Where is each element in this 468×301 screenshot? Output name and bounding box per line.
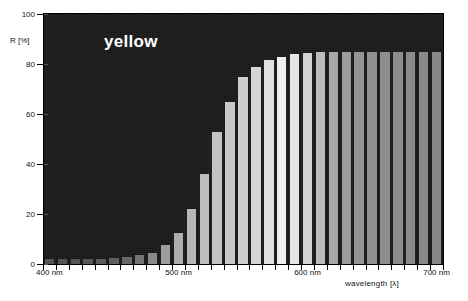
bar [148,253,157,264]
bar [122,257,131,265]
x-tick-mark [159,265,160,270]
y-tick-mark-inner [44,14,48,15]
bar [329,52,338,265]
x-tick-label: 500 nm [165,268,192,277]
bar [212,132,221,265]
bar [432,52,441,265]
bar [342,52,351,265]
x-tick-mark [404,265,405,270]
bar [367,52,376,265]
y-tick-mark [37,14,43,15]
bar [354,52,363,265]
x-tick-mark [249,265,250,270]
bar [290,54,299,264]
x-tick-mark [95,265,96,270]
bar [135,255,144,264]
x-tick-mark [262,265,263,270]
bar [238,77,247,265]
plot-right-border [443,14,444,265]
x-tick-mark [120,265,121,270]
bar [393,52,402,265]
y-tick-mark [37,214,43,215]
bar [225,102,234,265]
x-axis-title: wavelength [λ] [345,279,399,288]
bar [277,57,286,265]
x-tick-mark [237,265,238,270]
x-tick-mark [224,265,225,270]
x-tick-mark [378,265,379,270]
bar [419,52,428,265]
bar [264,60,273,264]
y-tick-label: 40 [0,160,35,169]
x-tick-mark [327,265,328,270]
x-tick-mark [198,265,199,270]
bar-series [43,14,443,264]
x-tick-mark [133,265,134,270]
x-tick-mark [340,265,341,270]
bar [174,233,183,264]
bar [161,245,170,264]
bar [406,52,415,265]
chart-title: yellow [104,32,158,52]
bar [187,209,196,264]
bar [303,53,312,264]
y-tick-label: 100 [0,10,35,19]
y-tick-mark-inner [44,64,48,65]
x-tick-mark [275,265,276,270]
y-tick-label: 60 [0,110,35,119]
x-tick-mark [82,265,83,270]
x-tick-mark [288,265,289,270]
y-axis-title: R [%] [10,36,30,45]
y-tick-label: 20 [0,210,35,219]
x-tick-mark [69,265,70,270]
y-tick-mark [37,164,43,165]
x-tick-mark [417,265,418,270]
bar [380,52,389,265]
bar [251,67,260,265]
y-axis-line [43,14,44,265]
x-tick-mark [108,265,109,270]
y-tick-label: 80 [0,60,35,69]
y-tick-mark-inner [44,264,48,265]
y-tick-mark-inner [44,214,48,215]
plot-area [43,14,443,264]
x-axis-line [43,264,444,265]
x-tick-mark [353,265,354,270]
y-tick-label: 0 [0,260,35,269]
y-tick-mark-inner [44,114,48,115]
plot-top-border [43,13,444,14]
x-tick-label: 600 nm [294,268,321,277]
x-tick-mark [211,265,212,270]
y-tick-mark [37,64,43,65]
x-tick-mark [146,265,147,270]
bar [200,174,209,264]
x-tick-label: 400 nm [36,268,63,277]
x-tick-mark [366,265,367,270]
y-tick-mark-inner [44,164,48,165]
y-tick-mark [37,114,43,115]
x-tick-mark [391,265,392,270]
figure: yellow 020406080100 400 nm500 nm600 nm70… [0,0,468,301]
x-tick-label: 700 nm [423,268,450,277]
bar [316,52,325,265]
